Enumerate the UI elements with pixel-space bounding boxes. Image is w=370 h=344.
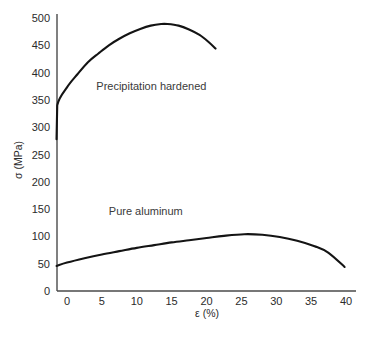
y-tick-label: 300 <box>32 121 50 133</box>
x-tick-label: 25 <box>235 295 247 307</box>
stress-strain-plot: 050100150200250300350400450500 051015202… <box>0 0 370 344</box>
y-tick-label: 450 <box>32 39 50 51</box>
series-label-pure-aluminum: Pure aluminum <box>109 205 183 217</box>
y-tick-label: 150 <box>32 203 50 215</box>
y-tick-label: 200 <box>32 176 50 188</box>
y-tick-label: 0 <box>44 285 50 297</box>
y-tick-label: 100 <box>32 230 50 242</box>
x-axis-tick-labels: 0510152025303540 <box>64 295 352 307</box>
y-tick-label: 400 <box>32 67 50 79</box>
x-tick-label: 5 <box>99 295 105 307</box>
y-axis-tick-labels: 050100150200250300350400450500 <box>32 12 50 297</box>
x-axis-title: ε (%) <box>195 307 219 319</box>
chart-figure: 050100150200250300350400450500 051015202… <box>0 0 370 344</box>
x-tick-label: 15 <box>165 295 177 307</box>
y-tick-label: 500 <box>32 12 50 24</box>
y-tick-label: 350 <box>32 94 50 106</box>
x-tick-label: 10 <box>131 295 143 307</box>
x-tick-label: 20 <box>200 295 212 307</box>
y-tick-label: 50 <box>38 258 50 270</box>
y-axis-title: σ (MPa) <box>12 141 24 179</box>
x-tick-label: 0 <box>64 295 70 307</box>
curve-pure-aluminum <box>57 234 345 267</box>
x-tick-label: 40 <box>340 295 352 307</box>
x-tick-label: 30 <box>270 295 282 307</box>
y-tick-label: 250 <box>32 149 50 161</box>
x-tick-label: 35 <box>305 295 317 307</box>
series-label-precipitation-hardened: Precipitation hardened <box>96 80 206 92</box>
